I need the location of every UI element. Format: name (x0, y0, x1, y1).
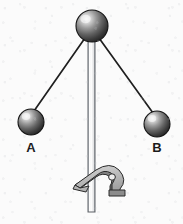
diagram-canvas: A B (0, 0, 183, 224)
rotation-arrow (73, 166, 125, 197)
rotation-arrow-base (109, 190, 125, 196)
pivot-sphere-body (76, 10, 108, 42)
sphere-a-highlight (22, 113, 30, 120)
sphere-a-body (18, 109, 44, 135)
label-sphere-b: B (152, 140, 161, 155)
label-sphere-a: A (26, 140, 36, 155)
sphere-a (18, 109, 44, 135)
physics-diagram-rotating-rod: A B (0, 0, 183, 224)
vertical-rod (88, 24, 95, 212)
pivot-sphere-highlight (80, 15, 90, 23)
string-to-sphere-a (34, 38, 85, 111)
sphere-b-highlight (148, 115, 156, 122)
sphere-b-body (144, 111, 170, 137)
string-to-sphere-b (99, 38, 153, 113)
pivot-sphere (76, 10, 108, 42)
sphere-b (144, 111, 170, 137)
rotation-arrow-curl-hole (109, 174, 116, 180)
